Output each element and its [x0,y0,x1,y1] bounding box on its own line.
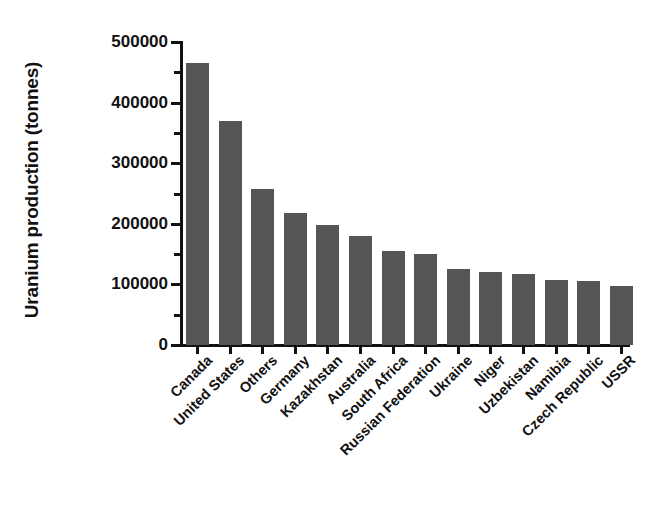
plot-area: 0100000200000300000400000500000 [180,42,630,345]
y-tick-label: 200000 [111,214,168,234]
y-tick-label: 400000 [111,93,168,113]
bar [414,254,437,345]
bar [316,225,339,345]
bar [545,280,568,345]
x-tick-mark [457,345,460,354]
bar [186,63,209,345]
x-tick-mark [620,345,623,354]
bar [577,281,600,345]
y-tick-label: 300000 [111,153,168,173]
bar [512,274,535,346]
y-tick-label: 500000 [111,32,168,52]
x-tick-label: USSR [599,352,639,392]
y-tick-label: 0 [159,335,168,355]
x-tick-mark [522,345,525,354]
y-tick-mark [171,283,180,286]
y-tick-mark [171,223,180,226]
x-tick-mark [261,345,264,354]
bar [610,286,633,345]
y-tick-mark [171,162,180,165]
bar [284,213,307,345]
x-tick-mark [555,345,558,354]
y-tick-label: 100000 [111,274,168,294]
bar [382,251,405,345]
bar [219,121,242,345]
x-tick-mark [294,345,297,354]
y-minor-tick-mark [174,193,180,196]
x-tick-mark [424,345,427,354]
x-label-ussr: USSR [599,352,639,392]
y-tick-mark [171,102,180,105]
bar [479,272,502,345]
bar-chart-figure: Uranium production (tonnes) 010000020000… [0,0,665,520]
bar [251,189,274,345]
y-minor-tick-mark [174,132,180,135]
x-tick-mark [229,345,232,354]
y-axis-title: Uranium production (tonnes) [10,30,54,350]
bar [349,236,372,345]
y-tick-mark [171,41,180,44]
bar [447,269,470,345]
y-tick-mark [171,344,180,347]
x-tick-mark [359,345,362,354]
x-tick-mark [326,345,329,354]
y-minor-tick-mark [174,253,180,256]
y-minor-tick-mark [174,71,180,74]
x-tick-mark [196,345,199,354]
x-tick-mark [587,345,590,354]
x-tick-mark [489,345,492,354]
x-tick-mark [392,345,395,354]
y-minor-tick-mark [174,314,180,317]
